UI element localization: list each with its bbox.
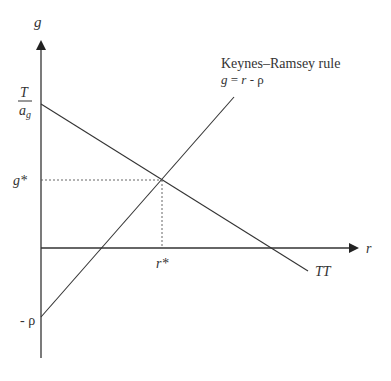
keynes-ramsey-equation: g = r - ρ — [221, 72, 264, 87]
tt-line — [41, 104, 308, 271]
diagram-canvas: g r T ag g* - ρ r* Keynes–Ramsey rule g … — [0, 0, 391, 381]
neg-rho-label: - ρ — [20, 313, 35, 328]
tt-intercept-numerator: T — [20, 85, 29, 100]
g-star-label: g* — [13, 173, 27, 188]
x-axis-label: r — [366, 241, 372, 256]
keynes-ramsey-title: Keynes–Ramsey rule — [221, 56, 340, 71]
tt-label: TT — [315, 264, 332, 279]
r-star-label: r* — [156, 256, 168, 271]
tt-intercept-denominator: ag — [19, 103, 31, 120]
y-axis-label: g — [34, 14, 42, 30]
